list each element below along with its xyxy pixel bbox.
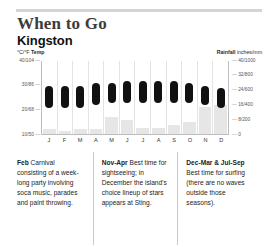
- rainfall-tick-label: — 40/1000: [232, 59, 255, 64]
- rainfall-tick-label: — 8/200: [232, 118, 250, 123]
- month-label: J: [135, 135, 151, 145]
- temp-axis-caption: °C/°F Temp: [17, 49, 44, 55]
- note-block: Nov-Apr Best time for sightseeing; in De…: [93, 152, 178, 245]
- month-labels: JFMAMJJASOND: [41, 135, 229, 145]
- month-column: [58, 61, 74, 135]
- rainfall-label: Rainfall: [217, 49, 236, 55]
- month-column: [182, 61, 198, 135]
- page-title: When to Go: [17, 14, 107, 34]
- month-column: [42, 61, 58, 135]
- temperature-range-bar: [139, 81, 147, 103]
- temperature-range-bar: [61, 86, 69, 108]
- notes-row: Feb Carnival consisting of a week-long p…: [8, 152, 262, 245]
- note-lead: Dec-Mar & Jul-Sep: [186, 159, 244, 166]
- rainfall-axis-caption: Rainfall inches/mm: [217, 49, 262, 55]
- temperature-range-bar: [108, 83, 116, 103]
- month-column: [198, 61, 214, 135]
- rainfall-bar: [214, 105, 227, 135]
- temp-tick-label: 40/104 —: [19, 59, 40, 64]
- rainfall-bar: [183, 122, 196, 135]
- temp-unit-label: °C/°F: [17, 49, 30, 55]
- note-lead: Feb: [17, 159, 29, 166]
- temperature-range-bar: [45, 86, 53, 108]
- month-column: [104, 61, 120, 135]
- temp-tick-label: 10/50 —: [22, 133, 40, 138]
- rainfall-bar: [199, 107, 212, 135]
- month-column: [167, 61, 183, 135]
- note-text: Carnival consisting of a week-long party…: [17, 159, 79, 206]
- month-label: F: [57, 135, 73, 145]
- month-label: A: [151, 135, 167, 145]
- month-label: D: [213, 135, 229, 145]
- rainfall-bar: [105, 117, 118, 136]
- month-columns: [42, 61, 228, 135]
- rainfall-axis-ticks: — 40/1000— 32/800— 24/600— 16/400— 8/200…: [231, 57, 257, 145]
- note-block: Feb Carnival consisting of a week-long p…: [8, 152, 93, 245]
- month-column: [89, 61, 105, 135]
- plot-area: [41, 61, 229, 135]
- temperature-range-bar: [154, 81, 162, 103]
- rainfall-bar: [121, 120, 134, 135]
- note-text: Best time for sightseeing; in December t…: [102, 159, 167, 206]
- temperature-range-bar: [185, 83, 193, 103]
- month-column: [213, 61, 228, 135]
- note-lead: Nov-Apr: [102, 159, 128, 166]
- month-label: N: [198, 135, 214, 145]
- when-to-go-infographic: When to Go Kingston °C/°F Temp Rainfall …: [0, 0, 270, 247]
- month-label: O: [182, 135, 198, 145]
- month-label: J: [41, 135, 57, 145]
- rainfall-tick-label: — 24/600: [232, 88, 253, 93]
- temperature-range-bar: [123, 81, 131, 103]
- note-text: Best time for surfing (there are no wave…: [186, 169, 245, 206]
- month-label: J: [119, 135, 135, 145]
- month-column: [151, 61, 167, 135]
- month-column: [73, 61, 89, 135]
- rainfall-tick-label: — 16/400: [232, 103, 253, 108]
- temp-tick-label: 20/68 —: [22, 108, 40, 113]
- city-name: Kingston: [17, 33, 73, 48]
- month-label: S: [166, 135, 182, 145]
- rainfall-tick-label: — 32/800: [232, 73, 253, 78]
- temp-label: Temp: [31, 49, 44, 55]
- temperature-range-bar: [201, 86, 209, 106]
- month-label: M: [72, 135, 88, 145]
- temperature-range-bar: [92, 83, 100, 105]
- temperature-range-bar: [170, 81, 178, 103]
- climate-chart: 40/104 —30/86 —20/68 —10/50 — — 40/1000—…: [17, 57, 255, 145]
- month-label: A: [88, 135, 104, 145]
- temp-tick-label: 30/86 —: [22, 83, 40, 88]
- month-column: [135, 61, 151, 135]
- month-column: [120, 61, 136, 135]
- note-block: Dec-Mar & Jul-Sep Best time for surfing …: [177, 152, 262, 245]
- temperature-range-bar: [217, 88, 225, 108]
- temperature-range-bar: [76, 86, 84, 108]
- month-label: M: [104, 135, 120, 145]
- header-rule: [16, 9, 262, 12]
- temp-axis-ticks: 40/104 —30/86 —20/68 —10/50 —: [15, 57, 41, 145]
- rainfall-unit-label: inches/mm: [237, 49, 262, 55]
- rainfall-tick-label: — 0: [232, 133, 241, 138]
